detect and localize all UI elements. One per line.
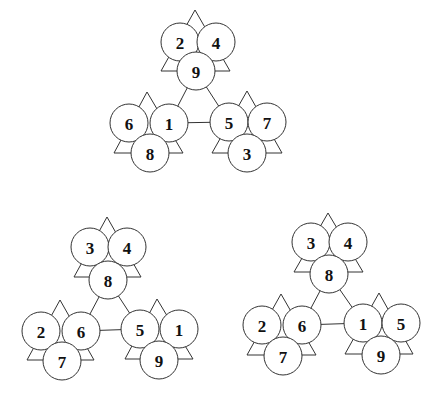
number-node: 8 (89, 261, 127, 299)
node-label: 7 (279, 348, 288, 367)
node-label: 9 (192, 63, 201, 82)
node-label: 8 (325, 266, 334, 285)
node-label: 1 (165, 115, 174, 134)
node-label: 9 (155, 352, 164, 371)
number-node: 7 (264, 337, 302, 375)
number-node: 9 (140, 341, 178, 379)
node-label: 2 (176, 34, 185, 53)
node-label: 7 (58, 353, 67, 372)
diagram-bottom-right: 348267159 (243, 213, 420, 375)
number-node: 8 (310, 255, 348, 293)
node-label: 5 (225, 114, 234, 133)
node-label: 4 (212, 34, 221, 53)
node-label: 1 (175, 321, 184, 340)
number-node: 7 (43, 342, 81, 380)
number-node: 4 (329, 223, 367, 261)
number-node: 9 (362, 336, 400, 374)
node-label: 1 (359, 315, 368, 334)
number-node: 4 (108, 228, 146, 266)
number-node: 3 (71, 228, 109, 266)
node-label: 5 (136, 321, 145, 340)
node-label: 3 (86, 239, 95, 258)
node-label: 8 (104, 272, 113, 291)
node-label: 6 (125, 115, 134, 134)
number-node: 8 (131, 134, 169, 172)
number-node: 9 (177, 52, 215, 90)
node-label: 9 (377, 347, 386, 366)
node-label: 2 (258, 317, 267, 336)
diagram-bottom-left: 348267519 (22, 217, 198, 380)
number-node: 5 (382, 304, 420, 342)
triangle-puzzle-diagrams: 249618573348267519348267159 (0, 0, 446, 405)
diagram-top: 249618573 (110, 10, 286, 172)
node-label: 8 (146, 145, 155, 164)
node-label: 6 (298, 317, 307, 336)
number-node: 3 (228, 134, 266, 172)
node-label: 7 (263, 114, 272, 133)
node-label: 4 (344, 234, 353, 253)
node-label: 3 (243, 145, 252, 164)
node-label: 4 (123, 239, 132, 258)
node-label: 2 (37, 323, 46, 342)
node-label: 6 (77, 323, 86, 342)
node-label: 3 (307, 234, 316, 253)
node-label: 5 (397, 315, 406, 334)
